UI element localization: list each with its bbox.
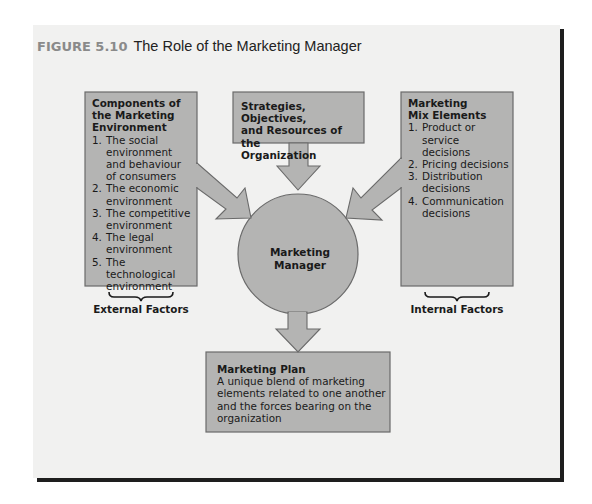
plan-line: elements related to one another (217, 387, 389, 399)
arrow-diagonal-left (197, 163, 251, 219)
arrow-diagonal-right (346, 158, 401, 220)
item-line: Pricing decisions (422, 158, 514, 170)
item-line: environment (106, 219, 196, 231)
arrow-down-bottom (276, 312, 320, 352)
strategies-box-text: Strategies, Objectives, and Resources of… (241, 100, 363, 161)
item-line: Product or service (422, 121, 514, 145)
marketing-manager-label: Marketing Manager (250, 246, 350, 272)
internal-box-heading: Marketing Mix Elements (408, 97, 514, 121)
list-item: 1. Product or service decisions (408, 121, 514, 158)
external-box-text: Components of the Marketing Environment … (92, 97, 196, 292)
item-number: 2. (408, 158, 418, 170)
marketing-plan-heading: Marketing Plan (217, 363, 389, 375)
item-line: environment (106, 195, 196, 207)
item-number: 2. (92, 182, 102, 194)
list-item: 4. The legal environment (92, 231, 196, 255)
item-line: The technological (106, 256, 196, 280)
list-item: 2. Pricing decisions (408, 158, 514, 170)
item-number: 1. (408, 121, 418, 133)
center-line: Manager (250, 259, 350, 272)
list-item: 3. The competitive environment (92, 207, 196, 231)
heading-line: Organization (241, 149, 363, 161)
heading-line: Strategies, Objectives, (241, 100, 363, 124)
plan-line: A unique blend of marketing (217, 375, 389, 387)
marketing-plan-text: Marketing Plan A unique blend of marketi… (217, 363, 389, 424)
item-line: environment (106, 280, 196, 292)
external-brace (109, 292, 173, 301)
list-item: 2. The economic environment (92, 182, 196, 206)
item-line: environment (106, 146, 196, 158)
item-number: 5. (92, 256, 102, 268)
item-number: 1. (92, 134, 102, 146)
item-line: The legal (106, 231, 196, 243)
item-line: decisions (422, 207, 514, 219)
list-item: 5. The technological environment (92, 256, 196, 293)
item-number: 4. (408, 195, 418, 207)
item-number: 3. (92, 207, 102, 219)
item-line: The social (106, 134, 196, 146)
list-item: 1. The social environment and behaviour … (92, 134, 196, 183)
item-line: environment (106, 243, 196, 255)
item-number: 4. (92, 231, 102, 243)
heading-line: and Resources of the (241, 124, 363, 148)
item-line: decisions (422, 182, 514, 194)
item-line: decisions (422, 146, 514, 158)
internal-factors-label: Internal Factors (397, 303, 517, 315)
internal-box-text: Marketing Mix Elements 1. Product or ser… (408, 97, 514, 219)
list-item: 3. Distribution decisions (408, 170, 514, 194)
center-line: Marketing (250, 246, 350, 259)
plan-line: and the forces bearing on the (217, 400, 389, 412)
plan-line: organization (217, 412, 389, 424)
external-factors-list: 1. The social environment and behaviour … (92, 134, 196, 293)
item-line: Distribution (422, 170, 514, 182)
heading-line: Environment (92, 121, 196, 133)
marketing-mix-list: 1. Product or service decisions 2. Prici… (408, 121, 514, 219)
item-line: The economic (106, 182, 196, 194)
heading-line: Components of (92, 97, 196, 109)
item-line: and behaviour (106, 158, 196, 170)
heading-line: the Marketing (92, 109, 196, 121)
item-line: The competitive (106, 207, 196, 219)
heading-line: Mix Elements (408, 109, 514, 121)
external-factors-label: External Factors (81, 303, 201, 315)
heading-line: Marketing (408, 97, 514, 109)
list-item: 4. Communication decisions (408, 195, 514, 219)
item-line: of consumers (106, 170, 196, 182)
item-number: 3. (408, 170, 418, 182)
internal-brace (425, 292, 489, 301)
item-line: Communication (422, 195, 514, 207)
external-box-heading: Components of the Marketing Environment (92, 97, 196, 134)
